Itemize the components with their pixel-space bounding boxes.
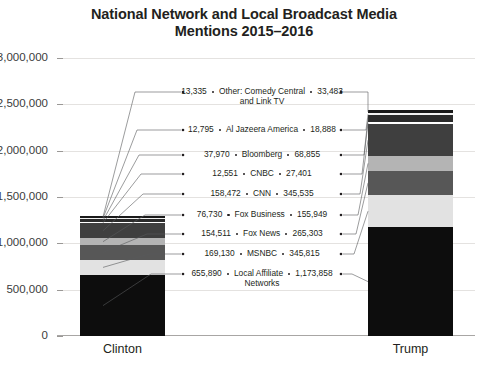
y-axis-tick <box>57 104 63 105</box>
y-axis-tick-label: 2,000,000 <box>0 144 48 156</box>
separator-dot-icon <box>276 193 278 195</box>
callout-series-name: Al Jazeera America <box>226 125 298 135</box>
y-axis-tick-label: 1,500,000 <box>0 190 48 202</box>
callout-value-trump: 345,535 <box>283 189 313 199</box>
bar-segment[interactable] <box>368 110 453 113</box>
separator-dot-icon <box>290 214 292 216</box>
separator-dot-icon <box>212 91 214 93</box>
separator-dot-icon <box>240 253 242 255</box>
separator-dot-icon <box>287 154 289 156</box>
callout-value-trump: 155,949 <box>297 210 327 220</box>
y-axis-tick <box>57 336 63 337</box>
series-callout: 76,730Fox Business155,949 <box>120 210 404 220</box>
callout-value-trump: 265,303 <box>292 229 322 239</box>
separator-dot-icon <box>303 129 305 131</box>
callout-value-trump: 1,173,858 <box>295 269 332 279</box>
separator-dot-icon <box>246 193 248 195</box>
bar-segment[interactable] <box>368 115 453 121</box>
separator-dot-icon <box>282 253 284 255</box>
y-axis-tick-label: 3,000,000 <box>0 51 48 63</box>
separator-dot-icon <box>285 233 287 235</box>
separator-dot-icon <box>227 273 229 275</box>
separator-dot-icon <box>310 91 312 93</box>
y-axis-tick-label: 0 <box>0 329 48 341</box>
y-axis-tick-label: 500,000 <box>0 283 48 295</box>
separator-dot-icon <box>236 233 238 235</box>
callout-value-clinton: 12,795 <box>188 125 214 135</box>
bar-segment[interactable] <box>368 113 453 115</box>
callout-value-trump: 18,888 <box>310 125 336 135</box>
y-axis-tick <box>57 290 63 291</box>
series-callout: 154,511Fox News265,303 <box>120 229 404 239</box>
callout-value-clinton: 37,970 <box>204 150 230 160</box>
chart-root: National Network and Local Broadcast Med… <box>0 0 484 365</box>
separator-dot-icon <box>219 129 221 131</box>
chart-title: National Network and Local Broadcast Med… <box>52 6 436 40</box>
y-axis-tick <box>57 58 63 59</box>
y-axis-tick-label: 1,000,000 <box>0 236 48 248</box>
y-axis-tick <box>57 243 63 244</box>
bar-segment[interactable] <box>80 238 165 245</box>
series-callout: 169,130MSNBC345,815 <box>120 249 404 259</box>
callout-series-name: Fox Business <box>235 210 285 220</box>
series-callout: 12,551CNBC27,401 <box>120 169 404 179</box>
bar-trump[interactable] <box>368 110 453 336</box>
callout-series-name: CNN <box>253 189 271 199</box>
bar-segment[interactable] <box>80 222 165 223</box>
separator-dot-icon <box>279 173 281 175</box>
callout-value-clinton: 655,890 <box>191 269 221 279</box>
callout-value-clinton: 154,511 <box>201 229 231 239</box>
callout-value-trump: 68,855 <box>294 150 320 160</box>
callout-value-clinton: 76,730 <box>197 210 223 220</box>
series-callout: 13,335Other: Comedy Central33,483and Lin… <box>120 87 404 106</box>
callout-value-clinton: 158,472 <box>210 189 240 199</box>
callout-series-name: CNBC <box>250 169 274 179</box>
callout-value-clinton: 169,130 <box>204 249 234 259</box>
callout-value-trump: 27,401 <box>286 169 312 179</box>
x-axis-label-trump: Trump <box>368 342 453 356</box>
callout-series-name: Fox News <box>243 229 280 239</box>
callout-series-name-line2: Networks <box>120 279 404 289</box>
bar-segment[interactable] <box>368 122 453 125</box>
separator-dot-icon <box>288 273 290 275</box>
gridline <box>63 58 475 59</box>
series-callout: 655,890Local Affiliate1,173,858Networks <box>120 269 404 288</box>
y-axis-tick-label: 2,500,000 <box>0 97 48 109</box>
callout-series-name: Bloomberg <box>242 150 283 160</box>
series-callout: 37,970Bloomberg68,855 <box>120 150 404 160</box>
separator-dot-icon <box>227 214 229 216</box>
y-axis-tick <box>57 197 63 198</box>
separator-dot-icon <box>235 154 237 156</box>
callout-value-clinton: 12,551 <box>212 169 238 179</box>
callout-series-name: MSNBC <box>247 249 277 259</box>
separator-dot-icon <box>243 173 245 175</box>
series-callout: 158,472CNN345,535 <box>120 189 404 199</box>
callout-value-trump: 33,483 <box>317 87 343 97</box>
y-axis-tick <box>57 151 63 152</box>
callout-value-trump: 345,815 <box>289 249 319 259</box>
callout-value-clinton: 13,335 <box>181 87 207 97</box>
callout-series-name-line2: and Link TV <box>120 97 404 107</box>
series-callout: 12,795Al Jazeera America18,888 <box>120 125 404 135</box>
x-axis-label-clinton: Clinton <box>80 342 165 356</box>
